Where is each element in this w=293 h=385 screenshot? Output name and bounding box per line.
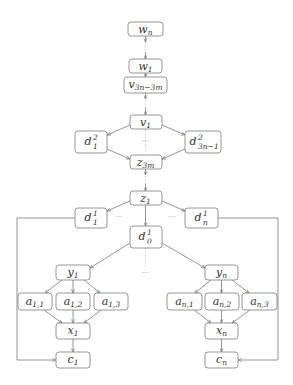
edge-an1-xn bbox=[194, 310, 211, 323]
node-v3n-3m: v3n−3m bbox=[124, 77, 167, 93]
nodes: wn w1 v3n−3m v1 d 2 1 d 2 3n−1 bbox=[18, 22, 277, 368]
edge-v1-d2-1 bbox=[107, 125, 130, 135]
svg-text:0: 0 bbox=[147, 237, 152, 246]
node-z1: z1 bbox=[130, 191, 162, 206]
svg-text:1: 1 bbox=[93, 218, 98, 227]
node-d2-3n-1: d 2 3n−1 bbox=[185, 131, 221, 153]
svg-text:n: n bbox=[203, 218, 208, 227]
svg-text:3n−1: 3n−1 bbox=[198, 142, 219, 151]
svg-text:d: d bbox=[84, 211, 91, 224]
node-a12: a1,2 bbox=[56, 293, 90, 310]
svg-text:d: d bbox=[138, 230, 145, 243]
node-x1: x1 bbox=[56, 323, 90, 339]
node-c1: c1 bbox=[56, 352, 90, 368]
edge-d1-0-y1 bbox=[90, 243, 130, 268]
edge-yn-an1 bbox=[195, 280, 211, 293]
edge-an3-xn bbox=[232, 310, 250, 323]
node-y1: y1 bbox=[56, 265, 90, 280]
svg-text:d: d bbox=[189, 135, 196, 148]
ellipsis-d1-right: ··· bbox=[168, 213, 176, 222]
node-d2-1: d 2 1 bbox=[75, 131, 107, 153]
node-xn: xn bbox=[205, 323, 238, 339]
edge-a13-x1 bbox=[84, 310, 101, 323]
ellipsis-d1-left: ··· bbox=[115, 213, 123, 222]
node-an1: an,1 bbox=[167, 293, 202, 310]
svg-text:2: 2 bbox=[92, 133, 98, 142]
edge-v1-d2-3n1 bbox=[162, 125, 185, 135]
node-wn: wn bbox=[128, 22, 163, 37]
reduction-graph-diagram: ··· ··· ··· ··· wn w1 v3n−3m v1 d 2 bbox=[0, 0, 293, 385]
edge-d2-1-z3m bbox=[107, 149, 130, 159]
ellipsis-d2-row: ··· bbox=[142, 137, 150, 146]
edge-d1-0-yn bbox=[162, 243, 205, 268]
svg-text:1: 1 bbox=[93, 142, 98, 151]
node-cn: cn bbox=[205, 352, 238, 368]
svg-text:2: 2 bbox=[197, 133, 203, 142]
edge-y1-a13 bbox=[84, 280, 100, 293]
edge-yn-an3 bbox=[232, 280, 249, 293]
node-w1: w1 bbox=[129, 59, 162, 74]
svg-text:d: d bbox=[194, 211, 201, 224]
node-v1: v1 bbox=[130, 115, 162, 130]
node-a11: a1,1 bbox=[18, 293, 52, 310]
node-yn: yn bbox=[205, 265, 238, 280]
node-an3: an,3 bbox=[242, 293, 277, 310]
svg-text:1: 1 bbox=[147, 228, 152, 237]
edge-d2-3n1-z3m bbox=[162, 149, 185, 159]
ellipsis-gadgets: ··· bbox=[142, 269, 150, 278]
edge-a11-x1 bbox=[44, 310, 62, 323]
node-an2: an,2 bbox=[205, 293, 239, 310]
node-d1-0: d 1 0 bbox=[130, 226, 162, 248]
node-d1-1: d 1 1 bbox=[75, 208, 107, 228]
edge-z1-d1-n bbox=[162, 201, 185, 211]
svg-text:1: 1 bbox=[203, 209, 208, 218]
svg-text:1: 1 bbox=[93, 209, 98, 218]
edge-y1-a11 bbox=[45, 280, 62, 293]
svg-text:d: d bbox=[84, 135, 91, 148]
node-a13: a1,3 bbox=[94, 293, 128, 310]
node-d1-n: d 1 n bbox=[185, 208, 218, 228]
node-z3m: z3m bbox=[130, 155, 162, 170]
edge-z1-d1-1 bbox=[107, 201, 130, 211]
